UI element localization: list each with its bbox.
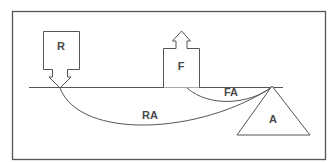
resistance-arm-arc: [60, 87, 272, 125]
force-arm-label: FA: [224, 86, 238, 98]
resistance-arm-label: RA: [142, 109, 158, 121]
resistance-block: R: [44, 32, 80, 89]
fulcrum: A: [237, 86, 310, 135]
resistance-label: R: [57, 40, 65, 52]
force-label: F: [178, 60, 185, 72]
force-block: F: [164, 31, 200, 88]
lever-diagram: R F RA FA A: [0, 0, 335, 162]
fulcrum-label: A: [269, 113, 277, 125]
fulcrum-triangle-icon: [237, 86, 310, 135]
